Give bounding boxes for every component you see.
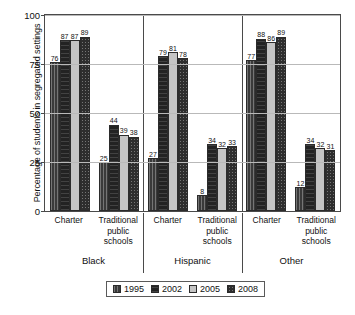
bar-value-label: 34: [307, 137, 315, 145]
bar[interactable]: 86: [266, 42, 276, 211]
bar-value-label: 77: [247, 53, 255, 61]
legend-label: 2002: [162, 284, 182, 294]
bar-value-label: 34: [208, 137, 216, 145]
bar-value-label: 76: [51, 55, 59, 63]
legend-swatch: [113, 285, 121, 293]
bar-value-label: 88: [257, 31, 265, 39]
bar[interactable]: 25: [99, 162, 109, 211]
bar-value-label: 87: [71, 33, 79, 41]
bar-value-label: 78: [179, 51, 187, 59]
group-divider: [242, 213, 243, 273]
legend-item[interactable]: 2008: [227, 284, 258, 294]
x-axis-group-label: Black: [44, 255, 143, 275]
x-axis-category-label: Traditionalpublicschools: [94, 213, 144, 255]
y-axis-tick-mark: [41, 162, 45, 163]
x-axis-category-line: public: [193, 226, 243, 237]
x-axis-category-label: Traditionalpublicschools: [292, 213, 342, 255]
x-label-supergroup: CharterTraditionalpublicschools: [242, 213, 341, 255]
legend-label: 2008: [238, 284, 258, 294]
legend-swatch: [227, 285, 235, 293]
x-axis-category-label: Traditionalpublicschools: [193, 213, 243, 255]
x-axis-category-line: Charter: [242, 215, 292, 226]
x-axis-category-line: Traditional: [292, 215, 342, 226]
y-axis-tick-mark: [41, 211, 45, 212]
gridline: [45, 162, 340, 163]
bar-chart-figure: Percentage of students in segregated set…: [0, 0, 355, 315]
bar-value-label: 32: [218, 141, 226, 149]
bar-value-label: 79: [159, 49, 167, 57]
bar-value-label: 27: [149, 151, 157, 159]
bar[interactable]: 32: [217, 148, 227, 211]
bar[interactable]: 78: [178, 58, 188, 211]
x-axis-category-line: public: [292, 226, 342, 237]
bar[interactable]: 87: [60, 40, 70, 211]
bar-value-label: 38: [130, 129, 138, 137]
bar-value-label: 86: [267, 35, 275, 43]
x-axis-category-line: public: [94, 226, 144, 237]
bar[interactable]: 79: [158, 56, 168, 211]
bar[interactable]: 34: [207, 144, 217, 211]
bar[interactable]: 77: [246, 60, 256, 211]
bar[interactable]: 89: [80, 37, 90, 211]
x-axis-category-labels: CharterTraditionalpublicschoolsCharterTr…: [44, 213, 341, 255]
x-axis-category-line: schools: [193, 236, 243, 247]
bar-value-label: 89: [81, 29, 89, 37]
x-axis-group-label: Hispanic: [143, 255, 242, 275]
bar-value-label: 81: [169, 45, 177, 53]
chart-legend: 1995200220052008: [106, 281, 265, 297]
x-axis-category-label: Charter: [44, 213, 94, 255]
bar[interactable]: 44: [109, 125, 119, 211]
bar-value-label: 89: [277, 29, 285, 37]
x-axis-category-label: Charter: [242, 213, 292, 255]
bar-value-label: 33: [228, 139, 236, 147]
x-axis-category-line: Charter: [143, 215, 193, 226]
group-divider: [143, 213, 144, 273]
x-axis-category-label: Charter: [143, 213, 193, 255]
bar-value-label: 44: [110, 117, 118, 125]
bar[interactable]: 76: [50, 62, 60, 211]
bar[interactable]: 38: [129, 137, 139, 211]
x-label-supergroup: CharterTraditionalpublicschools: [44, 213, 143, 255]
bar[interactable]: 89: [276, 37, 286, 211]
x-axis-group-label: Other: [242, 255, 341, 275]
x-label-supergroup: CharterTraditionalpublicschools: [143, 213, 242, 255]
legend-item[interactable]: 2005: [189, 284, 220, 294]
bar-value-label: 32: [317, 141, 325, 149]
bar[interactable]: 33: [227, 146, 237, 211]
bar[interactable]: 32: [315, 148, 325, 211]
bar[interactable]: 34: [305, 144, 315, 211]
x-axis-category-line: Charter: [44, 215, 94, 226]
bar-value-label: 31: [327, 143, 335, 151]
bar-value-label: 39: [120, 127, 128, 135]
legend-item[interactable]: 1995: [113, 284, 144, 294]
gridline: [45, 113, 340, 114]
bar[interactable]: 39: [119, 135, 129, 211]
x-axis-category-line: Traditional: [193, 215, 243, 226]
legend-label: 1995: [124, 284, 144, 294]
legend-swatch: [151, 285, 159, 293]
bar[interactable]: 81: [168, 52, 178, 211]
legend-swatch: [189, 285, 197, 293]
bar[interactable]: 31: [325, 150, 335, 211]
bar[interactable]: 27: [148, 158, 158, 211]
legend-label: 2005: [200, 284, 220, 294]
y-axis-tick-mark: [41, 113, 45, 114]
gridline: [45, 64, 340, 65]
bar-value-label: 8: [200, 188, 204, 196]
bar-value-label: 87: [61, 33, 69, 41]
bar[interactable]: 12: [295, 187, 305, 211]
y-axis-tick-mark: [41, 15, 45, 16]
y-axis-tick-mark: [41, 64, 45, 65]
bar[interactable]: 8: [197, 195, 207, 211]
bar-value-label: 12: [297, 180, 305, 188]
legend-item[interactable]: 2002: [151, 284, 182, 294]
gridline: [45, 15, 340, 16]
x-axis-category-line: Traditional: [94, 215, 144, 226]
x-axis-group-labels: BlackHispanicOther: [44, 255, 341, 275]
plot-area: 7687878925443938277981788343233778886891…: [44, 14, 341, 212]
bar[interactable]: 87: [70, 40, 80, 211]
x-axis-category-line: schools: [94, 236, 144, 247]
x-axis-category-line: schools: [292, 236, 342, 247]
